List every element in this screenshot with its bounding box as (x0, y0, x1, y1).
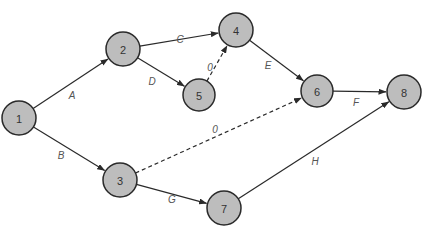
node-label: 7 (221, 203, 227, 215)
network-diagram: 12345678 ABCD0E0FGH (0, 0, 425, 232)
edge-label-6-8: F (353, 97, 360, 108)
node-label: 2 (120, 44, 126, 56)
node-5: 5 (183, 79, 215, 111)
edge-label-3-7: G (168, 194, 176, 205)
node-6: 6 (301, 75, 333, 107)
node-label: 8 (401, 87, 407, 99)
edge-label-2-4: C (176, 34, 184, 45)
node-7: 7 (207, 191, 241, 225)
node-4: 4 (219, 13, 253, 47)
node-label: 5 (196, 90, 202, 102)
edge-1-3-arrow (33, 127, 104, 171)
node-1: 1 (2, 101, 36, 135)
edge-3-6-dummy-arrow (135, 98, 301, 173)
edge-label-3-6: 0 (212, 124, 218, 135)
edge-label-2-5: D (148, 76, 155, 87)
nodes-layer: 12345678 (2, 13, 421, 225)
edge-label-5-4: 0 (207, 62, 213, 73)
node-label: 1 (16, 113, 22, 125)
edge-label-1-3: B (58, 150, 65, 161)
edge-label-1-2: A (68, 90, 76, 101)
node-label: 4 (233, 25, 239, 37)
edge-6-8-arrow (333, 91, 386, 92)
node-2: 2 (106, 32, 140, 66)
edge-2-5-arrow (138, 58, 185, 86)
node-3: 3 (103, 163, 137, 197)
edge-4-6-arrow (250, 40, 304, 81)
node-8: 8 (387, 75, 421, 109)
edge-7-8-arrow (238, 102, 389, 199)
node-label: 3 (117, 175, 123, 187)
edge-1-2-arrow (33, 59, 108, 109)
edge-label-4-6: E (265, 60, 272, 71)
node-label: 6 (314, 86, 320, 98)
edge-label-7-8: H (311, 156, 319, 167)
edges-layer (33, 33, 389, 203)
